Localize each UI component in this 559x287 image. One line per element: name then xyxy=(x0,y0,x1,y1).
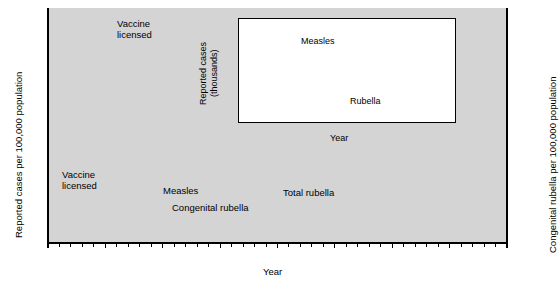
annotation-vaccine-licensed-low-line1: Vaccine xyxy=(62,169,95,180)
annotation-vaccine-licensed-top: Vaccine licensed xyxy=(117,19,152,40)
main-left-axis-title: Reported cases per 100,000 population xyxy=(14,72,25,238)
annotation-measles-inset: Measles xyxy=(301,36,335,46)
inset-x-axis-title: Year xyxy=(330,133,348,143)
axes-group xyxy=(48,8,507,248)
inset-y-axis-title-line1: Reported cases xyxy=(198,42,208,105)
annotation-congenital-rubella: Congenital rubella xyxy=(172,203,249,214)
main-x-axis-title: Year xyxy=(263,267,282,278)
annotation-vaccine-licensed-low-line2: licensed xyxy=(62,180,97,191)
annotation-vaccine-licensed-top-line1: Vaccine xyxy=(117,18,150,29)
annotation-vaccine-licensed-top-line2: licensed xyxy=(117,29,152,40)
main-right-axis-title: Congenital rubella per 100,000 populatio… xyxy=(548,77,559,253)
annotation-measles-main: Measles xyxy=(163,186,198,197)
annotation-vaccine-licensed-low: Vaccine licensed xyxy=(62,170,97,191)
inset-y-axis-title-line2: (thousands) xyxy=(209,49,219,97)
annotation-rubella-inset: Rubella xyxy=(350,96,381,106)
annotation-total-rubella: Total rubella xyxy=(283,188,334,199)
